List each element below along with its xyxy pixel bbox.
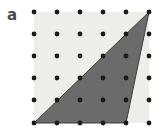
lattice-dot [55, 10, 60, 15]
lattice-dot [101, 10, 106, 15]
figure-container: a [0, 0, 168, 136]
lattice-dot [147, 98, 152, 103]
lattice-dot [124, 54, 129, 59]
lattice-dot [78, 98, 83, 103]
lattice-dot [32, 121, 37, 126]
lattice-dot [101, 121, 106, 126]
lattice-dot [147, 54, 152, 59]
lattice-dot [147, 121, 152, 126]
lattice-dot [32, 32, 37, 37]
lattice-dot [101, 98, 106, 103]
lattice-dot [124, 32, 129, 37]
lattice-dot [147, 76, 152, 81]
lattice-dot [78, 121, 83, 126]
lattice-dot [55, 76, 60, 81]
lattice-dot [78, 76, 83, 81]
lattice-dot [32, 98, 37, 103]
lattice-dot [55, 98, 60, 103]
lattice-dot [32, 76, 37, 81]
lattice-dot [78, 32, 83, 37]
lattice-dot [32, 10, 37, 15]
dot-grid-triangle-figure [0, 0, 168, 136]
lattice-dot [55, 32, 60, 37]
lattice-dot [55, 54, 60, 59]
lattice-dot [101, 54, 106, 59]
lattice-dot [124, 76, 129, 81]
lattice-dot [101, 32, 106, 37]
lattice-dot [78, 10, 83, 15]
lattice-dot [124, 10, 129, 15]
lattice-dot [147, 10, 152, 15]
lattice-dot [124, 98, 129, 103]
lattice-dot [55, 121, 60, 126]
lattice-dot [147, 32, 152, 37]
lattice-dot [101, 76, 106, 81]
lattice-dot [78, 54, 83, 59]
lattice-dot [32, 54, 37, 59]
lattice-dot [124, 121, 129, 126]
